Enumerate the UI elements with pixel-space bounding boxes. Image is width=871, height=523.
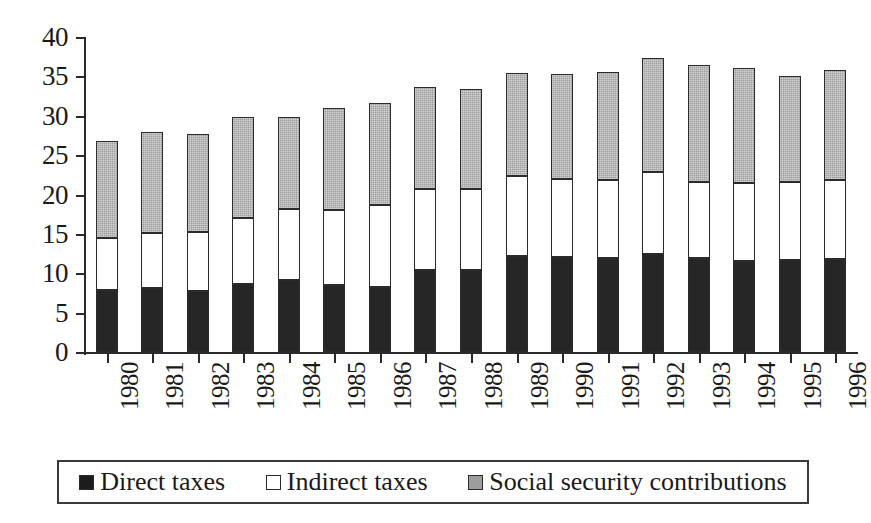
bar-segment-social-security-contributions-1982[interactable] bbox=[187, 134, 209, 232]
x-tick-mark bbox=[289, 354, 291, 363]
bar-segment-direct-taxes-1981[interactable] bbox=[141, 288, 163, 352]
legend-item-2[interactable]: Social security contributions bbox=[468, 469, 787, 495]
x-tick-label-1987: 1987 bbox=[435, 362, 460, 450]
bar-segment-direct-taxes-1990[interactable] bbox=[551, 257, 573, 352]
x-tick-label-1983: 1983 bbox=[253, 362, 278, 450]
bar-segment-social-security-contributions-1990[interactable] bbox=[551, 74, 573, 179]
x-tick-label-1980: 1980 bbox=[117, 362, 142, 450]
bar-segment-direct-taxes-1994[interactable] bbox=[733, 261, 755, 352]
bar-1994[interactable] bbox=[733, 68, 755, 352]
bar-segment-direct-taxes-1982[interactable] bbox=[187, 291, 209, 352]
bar-1990[interactable] bbox=[551, 74, 573, 352]
x-tick-label-1994: 1994 bbox=[754, 362, 779, 450]
bar-segment-direct-taxes-1983[interactable] bbox=[232, 284, 254, 352]
bar-segment-social-security-contributions-1996[interactable] bbox=[824, 70, 846, 179]
legend-item-1[interactable]: Indirect taxes bbox=[266, 469, 428, 495]
bar-segment-social-security-contributions-1991[interactable] bbox=[597, 72, 619, 180]
bar-1995[interactable] bbox=[779, 76, 801, 352]
bar-segment-social-security-contributions-1986[interactable] bbox=[369, 103, 391, 205]
bar-segment-indirect-taxes-1983[interactable] bbox=[232, 218, 254, 284]
bar-segment-indirect-taxes-1992[interactable] bbox=[642, 172, 664, 253]
x-tick-mark bbox=[152, 354, 154, 363]
bar-segment-social-security-contributions-1992[interactable] bbox=[642, 58, 664, 172]
x-tick-mark bbox=[380, 354, 382, 363]
x-tick-label-1991: 1991 bbox=[618, 362, 643, 450]
bar-segment-indirect-taxes-1991[interactable] bbox=[597, 180, 619, 257]
bar-1993[interactable] bbox=[688, 65, 710, 352]
bar-segment-indirect-taxes-1996[interactable] bbox=[824, 180, 846, 260]
bar-segment-direct-taxes-1991[interactable] bbox=[597, 258, 619, 353]
bar-segment-direct-taxes-1996[interactable] bbox=[824, 259, 846, 352]
bar-1989[interactable] bbox=[506, 73, 528, 352]
bar-1986[interactable] bbox=[369, 103, 391, 352]
bar-segment-indirect-taxes-1981[interactable] bbox=[141, 233, 163, 288]
x-tick-mark bbox=[790, 354, 792, 363]
bar-segment-direct-taxes-1988[interactable] bbox=[460, 270, 482, 352]
bar-segment-indirect-taxes-1982[interactable] bbox=[187, 232, 209, 291]
x-tick-label-1982: 1982 bbox=[208, 362, 233, 450]
bar-segment-indirect-taxes-1993[interactable] bbox=[688, 182, 710, 258]
bar-segment-direct-taxes-1993[interactable] bbox=[688, 258, 710, 353]
bar-segment-social-security-contributions-1980[interactable] bbox=[96, 141, 118, 238]
bar-segment-direct-taxes-1984[interactable] bbox=[278, 280, 300, 352]
x-tick-mark bbox=[699, 354, 701, 363]
black-square-swatch bbox=[79, 475, 94, 490]
x-tick-mark bbox=[744, 354, 746, 363]
y-tick-label-5: 5 bbox=[18, 299, 68, 326]
bar-segment-social-security-contributions-1987[interactable] bbox=[414, 87, 436, 189]
bars-layer bbox=[84, 0, 858, 360]
bar-segment-indirect-taxes-1990[interactable] bbox=[551, 179, 573, 257]
bar-1981[interactable] bbox=[141, 132, 163, 352]
bar-segment-social-security-contributions-1994[interactable] bbox=[733, 68, 755, 183]
bar-1991[interactable] bbox=[597, 72, 619, 352]
bar-segment-indirect-taxes-1980[interactable] bbox=[96, 238, 118, 290]
bar-segment-indirect-taxes-1984[interactable] bbox=[278, 209, 300, 279]
y-tick-mark bbox=[76, 37, 85, 39]
bar-segment-direct-taxes-1986[interactable] bbox=[369, 287, 391, 352]
bar-segment-direct-taxes-1995[interactable] bbox=[779, 260, 801, 352]
bar-1987[interactable] bbox=[414, 87, 436, 352]
bar-segment-indirect-taxes-1994[interactable] bbox=[733, 183, 755, 261]
bar-1980[interactable] bbox=[96, 141, 118, 352]
y-tick-mark bbox=[76, 273, 85, 275]
y-tick-label-15: 15 bbox=[18, 220, 68, 247]
bar-segment-indirect-taxes-1986[interactable] bbox=[369, 205, 391, 287]
x-tick-label-1989: 1989 bbox=[527, 362, 552, 450]
bar-segment-social-security-contributions-1981[interactable] bbox=[141, 132, 163, 233]
x-tick-mark bbox=[835, 354, 837, 363]
y-tick-label-10: 10 bbox=[18, 260, 68, 287]
bar-segment-indirect-taxes-1987[interactable] bbox=[414, 189, 436, 270]
y-tick-label-0: 0 bbox=[18, 339, 68, 366]
bar-segment-social-security-contributions-1988[interactable] bbox=[460, 89, 482, 189]
bar-1985[interactable] bbox=[323, 108, 345, 352]
x-tick-mark bbox=[562, 354, 564, 363]
bar-segment-indirect-taxes-1985[interactable] bbox=[323, 210, 345, 285]
bar-segment-direct-taxes-1987[interactable] bbox=[414, 270, 436, 352]
bar-segment-direct-taxes-1989[interactable] bbox=[506, 256, 528, 352]
bar-segment-social-security-contributions-1989[interactable] bbox=[506, 73, 528, 175]
y-tick-label-25: 25 bbox=[18, 142, 68, 169]
legend-item-0[interactable]: Direct taxes bbox=[79, 469, 225, 495]
x-axis-tick-labels: 1980198119821983198419851986198719881989… bbox=[84, 362, 858, 450]
bar-segment-indirect-taxes-1988[interactable] bbox=[460, 189, 482, 270]
bar-segment-social-security-contributions-1984[interactable] bbox=[278, 117, 300, 210]
bar-segment-social-security-contributions-1983[interactable] bbox=[232, 117, 254, 219]
bar-1982[interactable] bbox=[187, 134, 209, 352]
bar-segment-social-security-contributions-1985[interactable] bbox=[323, 108, 345, 210]
y-tick-mark bbox=[76, 313, 85, 315]
bar-segment-social-security-contributions-1993[interactable] bbox=[688, 65, 710, 182]
bar-segment-direct-taxes-1992[interactable] bbox=[642, 254, 664, 352]
x-tick-label-1986: 1986 bbox=[390, 362, 415, 450]
bar-1984[interactable] bbox=[278, 117, 300, 352]
bar-1996[interactable] bbox=[824, 70, 846, 352]
bar-segment-direct-taxes-1985[interactable] bbox=[323, 285, 345, 352]
y-tick-label-40: 40 bbox=[18, 24, 68, 51]
bar-1983[interactable] bbox=[232, 117, 254, 352]
bar-1992[interactable] bbox=[642, 58, 664, 352]
bar-1988[interactable] bbox=[460, 89, 482, 352]
bar-segment-direct-taxes-1980[interactable] bbox=[96, 290, 118, 352]
bar-segment-indirect-taxes-1995[interactable] bbox=[779, 182, 801, 260]
bar-segment-indirect-taxes-1989[interactable] bbox=[506, 176, 528, 256]
bar-segment-social-security-contributions-1995[interactable] bbox=[779, 76, 801, 182]
